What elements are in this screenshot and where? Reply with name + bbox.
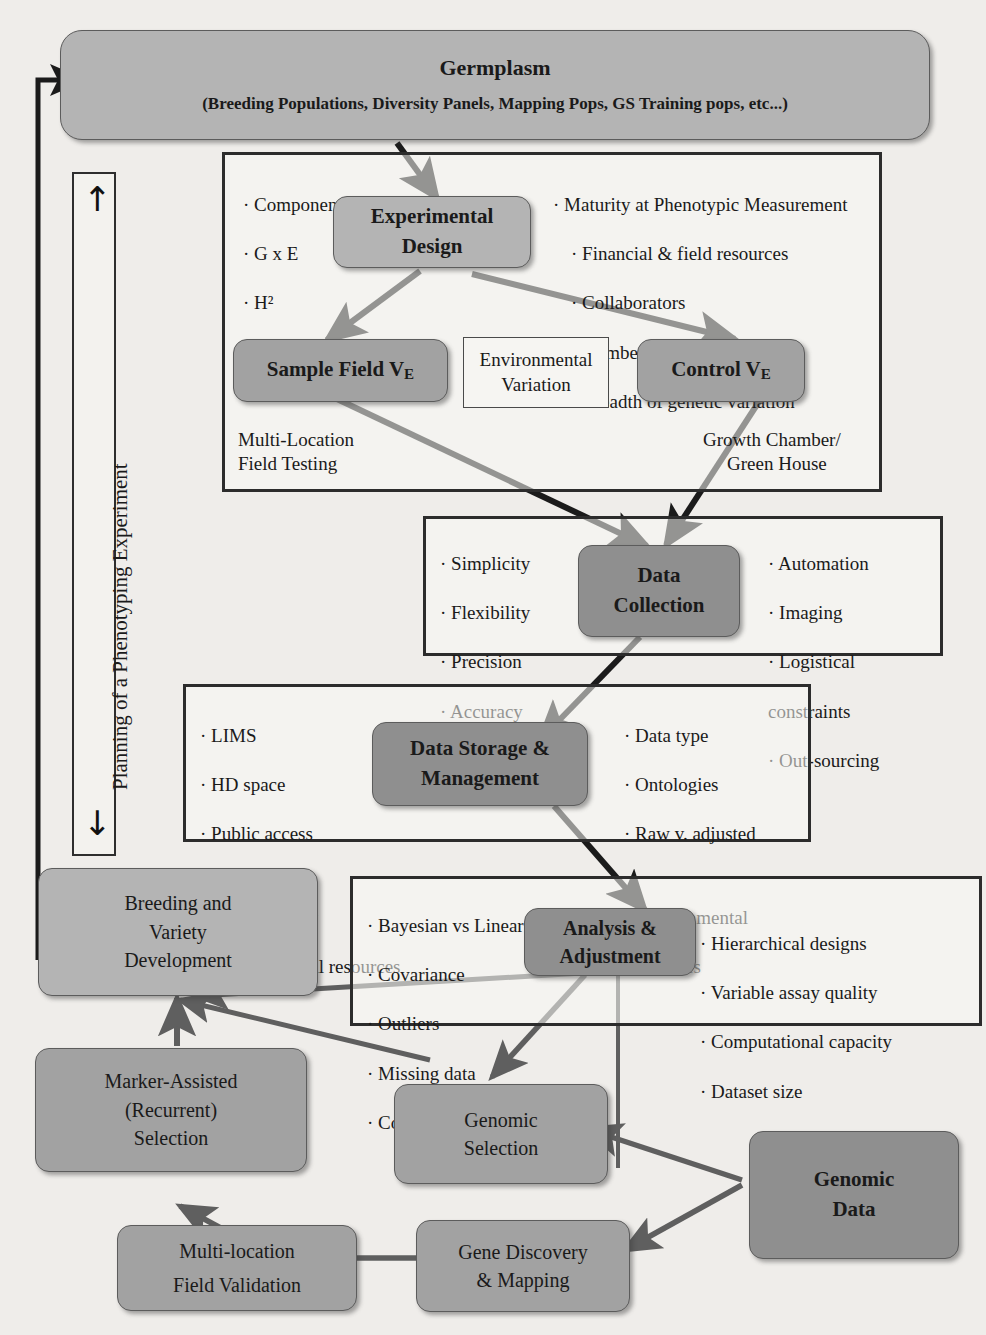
annotation-growth-chamber: Growth Chamber/ Green House bbox=[703, 428, 841, 477]
bullet-item: · Public access bbox=[200, 822, 401, 847]
data-collection-line1: Data bbox=[631, 561, 686, 591]
breeding-line1: Breeding and bbox=[118, 889, 237, 917]
multi-location-line2: Field Validation bbox=[167, 1271, 307, 1299]
germplasm-title: Germplasm bbox=[433, 53, 556, 84]
bullet-item: · Variable assay quality bbox=[700, 981, 892, 1006]
control-label: Control V bbox=[671, 357, 761, 381]
marker-line3: Selection bbox=[128, 1124, 214, 1152]
bullet-item: · Raw v. adjusted bbox=[624, 822, 756, 847]
bullet-item: · LIMS bbox=[200, 724, 401, 749]
node-marker-assisted-selection[interactable]: Marker-Assisted (Recurrent) Selection bbox=[35, 1048, 307, 1172]
genomic-data-line2: Data bbox=[826, 1195, 881, 1225]
bullet-item: · Data type bbox=[624, 724, 756, 749]
genomic-data-line1: Genomic bbox=[808, 1165, 900, 1195]
node-multi-location-field-validation[interactable]: Multi-location Field Validation bbox=[117, 1225, 357, 1311]
marker-line2: (Recurrent) bbox=[119, 1096, 223, 1124]
node-control-ve[interactable]: Control VE bbox=[637, 339, 805, 402]
bullet-item: · Computational capacity bbox=[700, 1030, 892, 1055]
control-subscript: E bbox=[761, 366, 771, 382]
bullet-item: · Dataset size bbox=[700, 1080, 892, 1105]
node-genomic-selection[interactable]: Genomic Selection bbox=[394, 1084, 608, 1184]
annotation-line2: Green House bbox=[703, 452, 841, 476]
experimental-design-line1: Experimental bbox=[365, 202, 499, 232]
bullet-item: · Flexibility bbox=[440, 601, 532, 626]
node-genomic-data[interactable]: Genomic Data bbox=[749, 1131, 959, 1259]
bullet-item: · Imaging bbox=[768, 601, 879, 626]
sample-field-label: Sample Field V bbox=[267, 357, 404, 381]
bullet-item: · Missing data bbox=[367, 1062, 583, 1087]
genomic-selection-line1: Genomic bbox=[458, 1106, 543, 1134]
node-gene-discovery-mapping[interactable]: Gene Discovery & Mapping bbox=[416, 1220, 630, 1312]
annotation-line1: Growth Chamber/ bbox=[703, 428, 841, 452]
bullet-item: · Hierarchical designs bbox=[700, 932, 892, 957]
germplasm-subtitle: (Breeding Populations, Diversity Panels,… bbox=[196, 92, 794, 117]
sample-field-subscript: E bbox=[404, 366, 414, 382]
experimental-design-line2: Design bbox=[396, 232, 469, 262]
node-breeding-variety-development[interactable]: Breeding and Variety Development bbox=[38, 868, 318, 996]
data-collection-line2: Collection bbox=[608, 591, 711, 621]
bullet-item: · Simplicity bbox=[440, 552, 532, 577]
node-germplasm[interactable]: Germplasm (Breeding Populations, Diversi… bbox=[60, 30, 930, 140]
gene-discovery-line1: Gene Discovery bbox=[452, 1238, 593, 1266]
breeding-line2: Variety bbox=[143, 918, 213, 946]
data-storage-line2: Management bbox=[415, 764, 545, 794]
bullet-item: · Maturity at Phenotypic Measurement bbox=[553, 193, 847, 218]
marker-line1: Marker-Assisted bbox=[99, 1067, 244, 1095]
gene-discovery-line2: & Mapping bbox=[471, 1266, 576, 1294]
node-experimental-design[interactable]: Experimental Design bbox=[333, 196, 531, 268]
bullet-item: · Precision bbox=[440, 650, 532, 675]
arrow-genomic-data-to-gene-discovery bbox=[625, 1185, 742, 1250]
bullet-item: · Automation bbox=[768, 552, 879, 577]
bullet-item: · Ontologies bbox=[624, 773, 756, 798]
side-rail-label: Planning of a Phenotyping Experiment bbox=[108, 463, 133, 790]
up-arrow-icon: ↑ bbox=[83, 182, 112, 216]
analysis-line1: Analysis & bbox=[557, 914, 663, 942]
analysis-line2: Adjustment bbox=[553, 942, 666, 970]
arrow-genomic-data-to-genomic-selection bbox=[587, 1129, 742, 1180]
environmental-variation-line2: Variation bbox=[501, 373, 571, 398]
node-data-storage-management[interactable]: Data Storage & Management bbox=[372, 722, 588, 806]
bullet-item: · Financial & field resources bbox=[553, 242, 847, 267]
annotation-line2: Field Testing bbox=[238, 452, 354, 476]
annotation-multi-location-field-testing: Multi-Location Field Testing bbox=[238, 428, 354, 477]
breeding-line3: Development bbox=[118, 946, 238, 974]
node-analysis-adjustment[interactable]: Analysis & Adjustment bbox=[524, 908, 696, 976]
diagram-canvas: Germplasm (Breeding Populations, Diversi… bbox=[0, 0, 986, 1335]
bullet-item: · Collaborators bbox=[553, 291, 847, 316]
bullet-item: · HD space bbox=[200, 773, 401, 798]
multi-location-line1: Multi-location bbox=[173, 1237, 301, 1265]
node-environmental-variation: Environmental Variation bbox=[463, 337, 609, 408]
genomic-selection-line2: Selection bbox=[458, 1134, 544, 1162]
annotation-line1: Multi-Location bbox=[238, 428, 354, 452]
data-storage-line1: Data Storage & bbox=[404, 734, 556, 764]
node-data-collection[interactable]: Data Collection bbox=[578, 545, 740, 637]
bullets-analysis-right: · Hierarchical designs · Variable assay … bbox=[700, 907, 892, 1129]
bullet-item: · H² bbox=[243, 291, 391, 316]
environmental-variation-line1: Environmental bbox=[480, 348, 593, 373]
bullet-item: · Logistical bbox=[768, 650, 879, 675]
node-sample-field[interactable]: Sample Field VE bbox=[233, 339, 448, 402]
bullet-item: · Outliers bbox=[367, 1012, 583, 1037]
down-arrow-icon: ↓ bbox=[83, 806, 112, 840]
